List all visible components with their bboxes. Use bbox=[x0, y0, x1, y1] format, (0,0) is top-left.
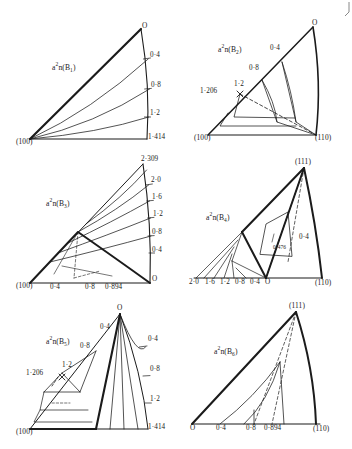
panel-b1-tick-0-8: 0·8 bbox=[151, 82, 161, 89]
panel-b5-right-tick-0-8: 0·8 bbox=[150, 366, 160, 373]
panel-b6-corner-111: (111) bbox=[289, 302, 305, 309]
panel-b2-tick-0-8: 0·8 bbox=[249, 65, 259, 72]
panel-b3-tick-2-309: 2·309 bbox=[141, 156, 158, 163]
panel-b3-function-label: a2n(B3) bbox=[46, 198, 70, 209]
panel-b4-corner-111: (111) bbox=[295, 158, 311, 165]
panel-b2-corner-100: (100) bbox=[194, 134, 211, 141]
panel-b2-function-label: a2n(B2) bbox=[218, 44, 242, 55]
panel-b6-function-label: a2n(B6) bbox=[214, 346, 238, 357]
panel-b1-tick-1-2: 1·2 bbox=[150, 110, 160, 117]
figure-contour-panel-grid: a2n(B1) (100) O 0·4 0·8 1·2 1·414 bbox=[0, 0, 352, 449]
panel-b3-bottom-tick-0-8: 0·8 bbox=[85, 284, 95, 291]
panel-b4-bottom-tick-1-2: 1·2 bbox=[220, 279, 230, 286]
panel-b5-right-tick-1-414: 1·414 bbox=[148, 424, 165, 431]
panel-b2: a2n(B2) (100) (110) O 0·4 0·8 1·2 1·206 bbox=[176, 0, 352, 150]
panel-b4-bottom-tick-0-8: 0·8 bbox=[235, 279, 245, 286]
panel-b2-corner-zero: O bbox=[312, 19, 317, 26]
panel-b4-bottom-tick-0-4: 0·4 bbox=[250, 279, 260, 286]
panel-b2-tick-0-4: 0·4 bbox=[270, 45, 280, 52]
panel-b3-tick-1-6: 1·6 bbox=[152, 194, 162, 201]
panel-b5-corner-100: (100) bbox=[16, 428, 33, 435]
panel-b6-bottom-tick-0-8: 0·8 bbox=[246, 425, 256, 432]
panel-b1-corner-100: (100) bbox=[16, 138, 33, 145]
panel-b5-left-tick-1-2: 1·2 bbox=[62, 362, 72, 369]
panel-b5-left-tick-0-4: 0·4 bbox=[100, 324, 110, 331]
panel-b6-bottom-tick-0-894: 0·894 bbox=[264, 425, 281, 432]
panel-b2-corner-110: (110) bbox=[315, 134, 331, 141]
panel-b5-right-tick-1-2: 1·2 bbox=[150, 396, 160, 403]
panel-b4-inner-contour-0-4: 0·4 bbox=[299, 234, 309, 241]
panel-b2-plot bbox=[176, 0, 352, 150]
panel-b4: a2n(B4) (111) (110) 0·4 0·476 2·0 1·6 1·… bbox=[176, 150, 352, 298]
panel-b4-bottom-tick-1-6: 1·6 bbox=[205, 279, 215, 286]
panel-b3-bottom-tick-0-894: 0·894 bbox=[105, 284, 122, 291]
panel-b5-function-label: a2n(B5) bbox=[46, 336, 70, 347]
panel-b3-tick-2-0: 2·0 bbox=[151, 177, 161, 184]
panel-b3-corner-100: (100) bbox=[16, 282, 33, 289]
panel-b1-plot bbox=[0, 0, 176, 150]
panel-b3-bottom-tick-0-4: 0·4 bbox=[50, 284, 60, 291]
panel-b5-right-tick-0-4: 0·4 bbox=[148, 336, 158, 343]
panel-b2-extremum-1-206: 1·206 bbox=[200, 88, 217, 95]
panel-b3: a2n(B3) (100) 2·309 2·0 1·6 1·2 0·8 0·4 … bbox=[0, 150, 176, 298]
panel-b4-corner-110: (110) bbox=[315, 279, 331, 286]
panel-b1: a2n(B1) (100) O 0·4 0·8 1·2 1·414 bbox=[0, 0, 176, 150]
panel-b1-corner-zero: O bbox=[142, 22, 147, 29]
panel-b2-tick-1-2: 1·2 bbox=[234, 81, 244, 88]
panel-b1-tick-0-4: 0·4 bbox=[150, 52, 160, 59]
panel-b5: a2n(B5) (100) O 0·4 0·8 1·2 1·206 0·4 0·… bbox=[0, 298, 176, 449]
panel-b6: a2n(B6) (111) (110) O 0·4 0·8 0·894 bbox=[176, 298, 352, 449]
panel-b3-tick-1-2: 1·2 bbox=[153, 211, 163, 218]
panel-b5-left-extremum-1-206: 1·206 bbox=[26, 370, 43, 377]
panel-b4-bottom-tick-zero: O bbox=[265, 279, 270, 286]
panel-b6-corner-110: (110) bbox=[313, 425, 329, 432]
panel-b4-bottom-tick-2-0: 2·0 bbox=[189, 279, 199, 286]
panel-b4-inner-value-0-476: 0·476 bbox=[273, 245, 286, 250]
panel-b1-function-label: a2n(B1) bbox=[52, 62, 76, 73]
panel-b3-plot bbox=[0, 150, 176, 298]
panel-b5-left-tick-0-8: 0·8 bbox=[80, 343, 90, 350]
panel-b1-tick-1-414: 1·414 bbox=[148, 134, 165, 141]
panel-b3-tick-zero: O bbox=[152, 276, 157, 283]
panel-b4-function-label: a2n(B4) bbox=[206, 212, 230, 223]
panel-b3-tick-0-4: 0·4 bbox=[152, 247, 162, 254]
panel-b3-tick-0-8: 0·8 bbox=[152, 229, 162, 236]
panel-b6-bottom-tick-zero: O bbox=[190, 425, 195, 432]
panel-b5-corner-zero: O bbox=[117, 304, 122, 311]
panel-b6-bottom-tick-0-4: 0·4 bbox=[216, 425, 226, 432]
panel-b4-plot bbox=[176, 150, 352, 298]
